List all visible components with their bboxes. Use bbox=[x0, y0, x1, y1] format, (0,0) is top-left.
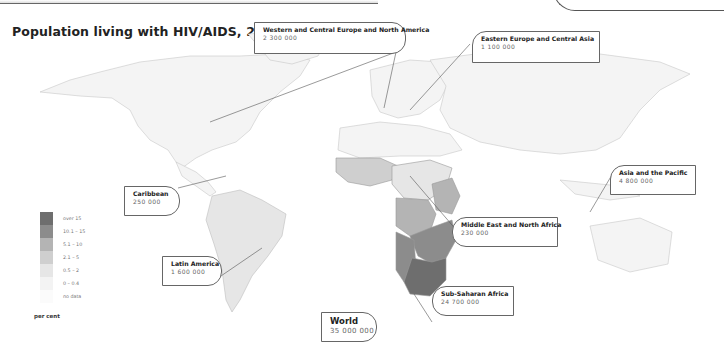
legend-label: no data bbox=[63, 294, 81, 299]
legend-label: 10.1 – 15 bbox=[63, 229, 85, 234]
region-name: Asia and the Pacific bbox=[619, 169, 687, 176]
world-value: 35 000 000 bbox=[330, 327, 368, 335]
west-africa-land bbox=[336, 158, 398, 186]
asia-land bbox=[430, 48, 690, 154]
callout-latin-america: Latin America 1 600 000 bbox=[162, 256, 222, 286]
region-name: Middle East and North Africa bbox=[461, 221, 549, 228]
legend-item-10-15: 10.1 – 15 bbox=[40, 225, 85, 238]
legend: over 15 10.1 – 15 5.1 – 10 2.1 – 5 0.5 –… bbox=[40, 212, 85, 303]
east-africa-land bbox=[432, 178, 460, 214]
north-africa-land bbox=[338, 122, 462, 158]
region-value: 1 100 000 bbox=[481, 43, 591, 50]
callout-western-europe-north-america: Western and Central Europe and North Ame… bbox=[254, 22, 406, 54]
region-name: Sub-Saharan Africa bbox=[441, 290, 505, 297]
callout-world-total: World 35 000 000 bbox=[321, 312, 377, 342]
legend-swatch bbox=[40, 251, 53, 264]
north-america-land bbox=[40, 54, 310, 168]
legend-item-no-data: no data bbox=[40, 290, 85, 303]
legend-item-0.5-2: 0.5 – 2 bbox=[40, 264, 85, 277]
legend-label: 0 – 0.4 bbox=[63, 281, 79, 286]
legend-label: 5.1 – 10 bbox=[63, 242, 82, 247]
legend-unit: per cent bbox=[34, 313, 60, 319]
region-value: 2 300 000 bbox=[263, 34, 397, 41]
callout-asia-pacific: Asia and the Pacific 4 800 000 bbox=[610, 165, 696, 195]
legend-label: 2.1 – 5 bbox=[63, 255, 79, 260]
region-value: 24 700 000 bbox=[441, 298, 505, 305]
region-value: 1 600 000 bbox=[171, 268, 213, 275]
central-america-land bbox=[176, 162, 216, 196]
callout-eastern-europe-central-asia: Eastern Europe and Central Asia 1 100 00… bbox=[472, 31, 600, 63]
legend-swatch bbox=[40, 277, 53, 290]
region-value: 250 000 bbox=[133, 198, 171, 205]
region-name: Caribbean bbox=[133, 190, 171, 197]
legend-swatch bbox=[40, 225, 53, 238]
australia-land bbox=[590, 218, 672, 272]
legend-item-over-15: over 15 bbox=[40, 212, 85, 225]
legend-label: 0.5 – 2 bbox=[63, 268, 79, 273]
region-value: 230 000 bbox=[461, 229, 549, 236]
region-name: Western and Central Europe and North Ame… bbox=[263, 26, 397, 33]
legend-item-2-5: 2.1 – 5 bbox=[40, 251, 85, 264]
legend-item-0-0.4: 0 – 0.4 bbox=[40, 277, 85, 290]
legend-swatch bbox=[40, 212, 53, 225]
legend-swatch bbox=[40, 264, 53, 277]
legend-swatch bbox=[40, 238, 53, 251]
callout-middle-east-north-africa: Middle East and North Africa 230 000 bbox=[452, 217, 558, 247]
legend-item-5-10: 5.1 – 10 bbox=[40, 238, 85, 251]
callout-caribbean: Caribbean 250 000 bbox=[124, 186, 180, 216]
south-america-land bbox=[206, 190, 286, 312]
world-name: World bbox=[330, 316, 368, 326]
region-name: Latin America bbox=[171, 260, 213, 267]
callout-sub-saharan-africa: Sub-Saharan Africa 24 700 000 bbox=[432, 286, 514, 316]
leader-ssa bbox=[414, 294, 432, 322]
legend-label: over 15 bbox=[63, 216, 81, 221]
legend-swatch bbox=[40, 290, 53, 303]
region-value: 4 800 000 bbox=[619, 177, 687, 184]
region-name: Eastern Europe and Central Asia bbox=[481, 35, 591, 42]
